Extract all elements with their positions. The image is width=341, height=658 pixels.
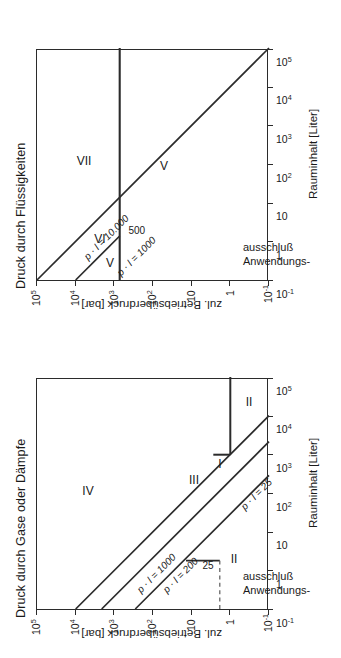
x-axis-title-gases: Rauminhalt [Liter] xyxy=(307,438,319,528)
y-tick-label-liq-5: 104 xyxy=(69,290,81,306)
x-tick-label-liq-5: 104 xyxy=(276,95,292,107)
x-tick-label-0: 10-1 xyxy=(276,617,294,629)
x-tick-label-liq-2: 10 xyxy=(276,211,288,223)
x-tick-label-liq-6: 105 xyxy=(276,56,292,68)
x-tick-label-5: 104 xyxy=(276,424,292,436)
panel-gases-vapours: Druck durch Gase oder Dämpfe IV II xyxy=(0,329,341,658)
region-label-II-left: II xyxy=(231,552,238,566)
y-tick-label-6: 105 xyxy=(30,619,42,635)
y-tick-label-liq-6: 105 xyxy=(30,290,42,306)
region-label-I: I xyxy=(218,457,221,471)
region-label-III: III xyxy=(189,473,199,487)
x-tick-label-liq-1: 1 xyxy=(276,249,282,261)
y-tick-label-liq-1: 1 xyxy=(224,290,236,296)
panel-liquids: Druck durch Flüssigkeiten VII VI V V p ·… xyxy=(0,0,341,329)
region-label-IV: IV xyxy=(82,484,93,498)
y-axis-title-liquids: zul. Betriebsüberdruck [bar] xyxy=(81,299,222,311)
figure-canvas: Druck durch Gase oder Dämpfe IV II xyxy=(0,0,341,658)
x-tick-label-liq-3: 102 xyxy=(276,172,292,184)
plot-area-gases: IV III II I II p · l = 1000 p · l = 200 … xyxy=(36,378,268,610)
x-tick-label-1: 1 xyxy=(276,578,282,590)
x-tick-label-6: 105 xyxy=(276,385,292,397)
y-tick-label-1: 1 xyxy=(224,619,236,625)
x-tick-label-2: 10 xyxy=(276,540,288,552)
y-tick-label-0: 10-1 xyxy=(262,614,274,632)
exclusion-line-2: ausschluß xyxy=(243,570,293,583)
panel-liquids-title: Druck durch Flüssigkeiten xyxy=(14,143,28,289)
region-label-II-right: II xyxy=(246,395,253,409)
exclusion-line-2-liq: ausschluß xyxy=(243,241,293,254)
panel-gases-title: Druck durch Gase oder Dämpfe xyxy=(14,439,28,618)
region-label-V-right: V xyxy=(160,159,168,173)
y-axis-title-gases: zul. Betriebsüberdruck [bar] xyxy=(81,628,222,640)
x-tick-label-4: 103 xyxy=(276,462,292,474)
x-tick-label-liq-0: 10-1 xyxy=(276,288,294,300)
y-tick-label-5: 104 xyxy=(69,619,81,635)
value-label-500: 500 xyxy=(129,225,146,236)
value-label-25: 25 xyxy=(203,560,214,571)
region-label-V-left: V xyxy=(106,256,114,270)
plot-area-liquids: VII VI V V p · l = 10.000 p · l = 1000 5… xyxy=(36,49,268,281)
x-tick-label-liq-4: 103 xyxy=(276,133,292,145)
x-axis-title-liquids: Rauminhalt [Liter] xyxy=(307,109,319,199)
y-tick-label-liq-0: 10-1 xyxy=(262,285,274,303)
region-label-VII: VII xyxy=(77,154,92,168)
x-tick-label-3: 102 xyxy=(276,501,292,513)
